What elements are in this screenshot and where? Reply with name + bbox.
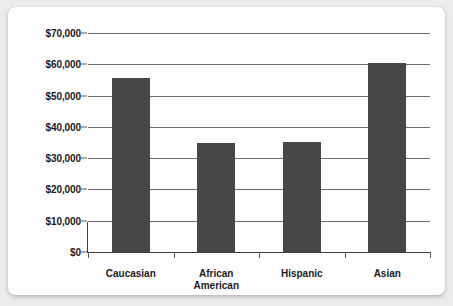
y-axis-tick-label: $30,000 — [46, 153, 81, 164]
x-axis-tick-mark — [430, 252, 431, 258]
x-axis-category-label: Asian — [342, 268, 432, 280]
y-axis-tick-label: $0 — [70, 247, 81, 258]
gridline — [88, 33, 430, 34]
y-axis-tick-mark — [81, 189, 87, 190]
bar — [112, 78, 150, 252]
x-axis-tick-mark — [259, 252, 260, 258]
y-axis-line — [87, 222, 88, 253]
x-axis-category-label: Caucasian — [86, 268, 176, 280]
y-axis-tick-label: $50,000 — [46, 90, 81, 101]
y-axis-tick-label: $10,000 — [46, 215, 81, 226]
bar — [283, 142, 321, 252]
x-axis-tick-mark — [88, 252, 89, 258]
x-axis-category-label: African American — [171, 268, 261, 292]
y-axis-tick-mark — [81, 33, 87, 34]
y-axis-tick-label: $70,000 — [46, 28, 81, 39]
bar-chart-plot-area: $70,000$60,000$50,000$40,000$30,000$20,0… — [88, 19, 430, 252]
x-axis-tick-mark — [174, 252, 175, 258]
y-axis-tick-mark — [81, 126, 87, 127]
x-axis-category-label: Hispanic — [257, 268, 347, 280]
y-axis-tick-mark — [81, 64, 87, 65]
y-axis-tick-label: $40,000 — [46, 121, 81, 132]
chart-card: $70,000$60,000$50,000$40,000$30,000$20,0… — [8, 7, 445, 295]
bar — [368, 63, 406, 252]
y-axis-tick-label: $60,000 — [46, 59, 81, 70]
y-axis-tick-mark — [81, 158, 87, 159]
bar — [197, 143, 235, 252]
y-axis-tick-mark — [81, 95, 87, 96]
y-axis-tick-mark — [81, 220, 87, 221]
y-axis-tick-label: $20,000 — [46, 184, 81, 195]
x-axis-tick-mark — [345, 252, 346, 258]
y-axis-tick-mark — [81, 252, 87, 253]
